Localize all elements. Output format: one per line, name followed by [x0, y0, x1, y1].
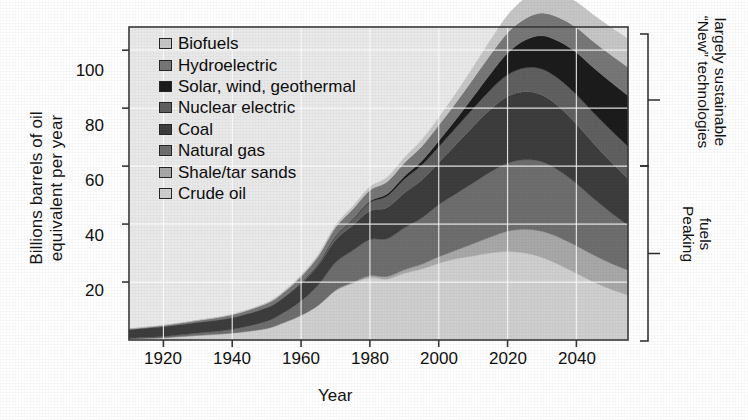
x-axis-title: Year	[318, 386, 352, 406]
legend-item-nuclear-electric: Nuclear electric	[159, 97, 356, 118]
bracket-bottom-label-line1: Peaking	[679, 174, 697, 294]
legend-swatch-icon	[159, 60, 172, 71]
x-tick-label-2000: 2000	[409, 349, 469, 369]
legend-swatch-icon	[159, 124, 172, 135]
chart-legend: BiofuelsHydroelectricSolar, wind, geothe…	[159, 33, 356, 204]
y-tick-label-40: 40	[60, 226, 104, 246]
x-tick-label-1920: 1920	[133, 349, 193, 369]
y-tick-label-100: 100	[60, 61, 104, 81]
legend-swatch-icon	[159, 102, 172, 113]
legend-item-coal: Coal	[159, 119, 356, 140]
y-tick-label-80: 80	[60, 116, 104, 136]
figure-root: Billions barrels of oil equivalent per y…	[0, 0, 748, 420]
legend-swatch-icon	[159, 188, 172, 199]
right-brackets	[640, 34, 660, 341]
x-tick-label-1980: 1980	[340, 349, 400, 369]
legend-swatch-icon	[159, 81, 172, 92]
x-tick-label-2040: 2040	[547, 349, 607, 369]
x-tick-label-1960: 1960	[271, 349, 331, 369]
legend-item-label: Crude oil	[178, 185, 246, 202]
legend-swatch-icon	[159, 145, 172, 156]
legend-swatch-icon	[159, 167, 172, 178]
x-tick-label-1940: 1940	[202, 349, 262, 369]
legend-item-crude-oil: Crude oil	[159, 183, 356, 204]
legend-item-hydroelectric: Hydroelectric	[159, 54, 356, 75]
y-axis-title-line1: Billions barrels of oil	[27, 78, 47, 298]
bracket-top-label-line2: largely sustainable	[711, 0, 729, 182]
legend-item-label: Nuclear electric	[178, 99, 295, 116]
legend-item-shale-tar-sands: Shale/tar sands	[159, 161, 356, 182]
y-tick-label-60: 60	[60, 171, 104, 191]
bracket-bottom-label-line2: fuels	[696, 174, 714, 294]
legend-item-label: Solar, wind, geothermal	[178, 78, 356, 95]
y-tick-label-20: 20	[60, 281, 104, 301]
x-tick-label-2020: 2020	[478, 349, 538, 369]
bracket-peaking-fuels	[640, 166, 648, 341]
legend-item-label: Hydroelectric	[178, 57, 277, 74]
bracket-new-technologies	[640, 34, 648, 166]
bracket-top-label-line1: “New” technologies	[694, 0, 712, 182]
legend-item-solar-wind-geothermal: Solar, wind, geothermal	[159, 76, 356, 97]
legend-item-label: Shale/tar sands	[178, 164, 296, 181]
legend-item-natural-gas: Natural gas	[159, 140, 356, 161]
legend-item-label: Coal	[178, 121, 213, 138]
legend-item-biofuels: Biofuels	[159, 33, 356, 54]
legend-swatch-icon	[159, 38, 172, 49]
legend-item-label: Natural gas	[178, 142, 265, 159]
legend-item-label: Biofuels	[178, 35, 238, 52]
